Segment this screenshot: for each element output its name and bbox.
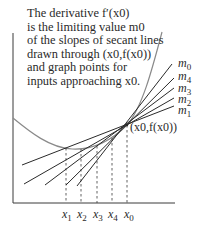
caption-line: The derivative f′(x0)	[27, 7, 164, 21]
caption: The derivative f′(x0) is the limiting va…	[27, 7, 164, 89]
slope-label-m1: m1	[178, 104, 191, 120]
caption-line: of the slopes of secant lines	[27, 34, 164, 48]
dashed-guides	[66, 125, 127, 203]
x-label-x4: x4	[108, 208, 118, 224]
caption-line: inputs approaching x0.	[27, 75, 164, 89]
secant-m1	[22, 106, 174, 165]
point-label: (x0,f(x0))	[130, 121, 177, 133]
x-label-x3: x3	[93, 208, 103, 224]
caption-line: is the limiting value m0	[27, 21, 164, 35]
point-x0	[126, 124, 128, 126]
secant-m3	[45, 88, 174, 185]
caption-line: and graph points for	[27, 61, 164, 75]
caption-line: drawn through (x0,f(x0))	[27, 48, 164, 62]
x-label-x2: x2	[77, 208, 87, 224]
x-label-x0: x0	[124, 208, 134, 224]
x-label-x1: x1	[62, 208, 72, 224]
